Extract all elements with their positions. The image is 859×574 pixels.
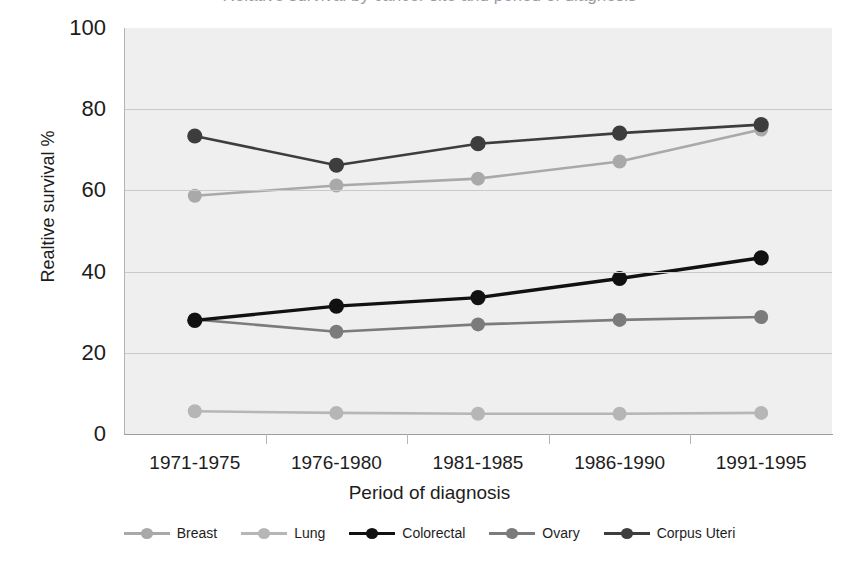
y-axis-line: [124, 28, 125, 434]
legend-item-breast[interactable]: Breast: [124, 525, 217, 541]
x-tick-label-1971-1975: 1971-1975: [115, 452, 275, 474]
legend-dot: [258, 528, 270, 539]
plot-area: [124, 28, 832, 434]
y-tick-label-40: 40: [44, 261, 106, 283]
gridlines: [124, 28, 832, 434]
legend-label: Ovary: [540, 525, 579, 541]
legend-label: Colorectal: [400, 525, 465, 541]
x-tick-label-1986-1990: 1986-1990: [540, 452, 700, 474]
legend-label: Corpus Uteri: [655, 525, 736, 541]
legend-marker-icon-corpus-uteri: [604, 527, 650, 539]
x-tick-label-1976-1980: 1976-1980: [256, 452, 416, 474]
x-tick-4: [690, 434, 691, 444]
gridline-20: [124, 353, 832, 354]
chart-legend: BreastLungColorectalOvaryCorpus Uteri: [0, 525, 859, 541]
chart-title-text: Relative survival by cancer site and per…: [0, 0, 859, 6]
x-tick-2: [407, 434, 408, 444]
legend-dot: [621, 528, 633, 539]
legend-label: Breast: [175, 525, 217, 541]
legend-item-colorectal[interactable]: Colorectal: [349, 525, 465, 541]
gridline-60: [124, 190, 832, 191]
legend-marker-icon-ovary: [489, 527, 535, 539]
legend-label: Lung: [292, 525, 325, 541]
x-tick-3: [549, 434, 550, 444]
y-tick-label-80: 80: [44, 98, 106, 120]
legend-dot: [141, 528, 153, 539]
legend-dot: [366, 528, 378, 539]
x-tick-label-1991-1995: 1991-1995: [681, 452, 841, 474]
y-tick-label-0: 0: [44, 423, 106, 445]
legend-marker-icon-breast: [124, 527, 170, 539]
cropped-chart-title: Relative survival by cancer site and per…: [0, 0, 859, 7]
legend-item-corpus-uteri[interactable]: Corpus Uteri: [604, 525, 736, 541]
chart-figure: Relative survival by cancer site and per…: [0, 0, 859, 574]
x-tick-label-1981-1985: 1981-1985: [398, 452, 558, 474]
y-tick-label-20: 20: [44, 342, 106, 364]
legend-item-ovary[interactable]: Ovary: [489, 525, 579, 541]
x-axis-line: [124, 434, 833, 435]
gridline-80: [124, 109, 832, 110]
y-tick-label-60: 60: [44, 179, 106, 201]
y-tick-label-100: 100: [44, 17, 106, 39]
gridline-40: [124, 272, 832, 273]
legend-marker-icon-colorectal: [349, 527, 395, 539]
legend-item-lung[interactable]: Lung: [241, 525, 325, 541]
legend-dot: [506, 528, 518, 539]
legend-marker-icon-lung: [241, 527, 287, 539]
x-axis-title: Period of diagnosis: [0, 482, 859, 504]
x-tick-1: [266, 434, 267, 444]
